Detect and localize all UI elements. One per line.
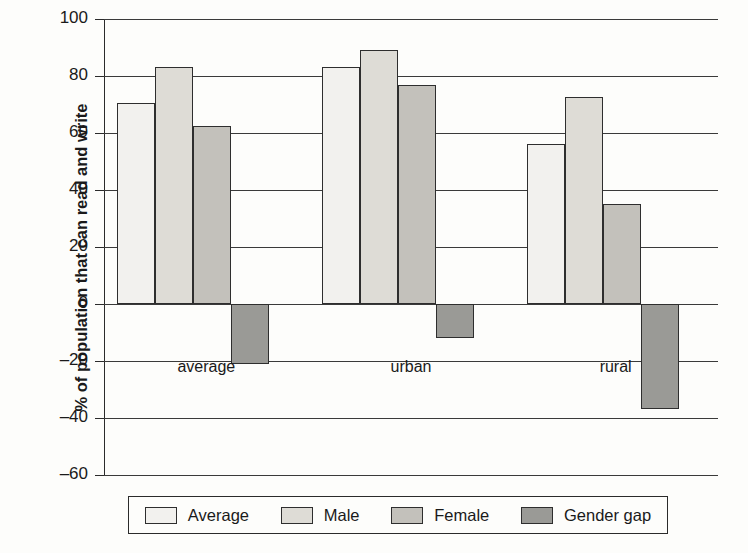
bar-urban-gender-gap [436, 304, 474, 338]
y-tick-60 [95, 133, 104, 134]
gridline-100 [104, 19, 718, 20]
bar-average-male [155, 67, 193, 304]
legend-label: Gender gap [564, 506, 651, 525]
bar-average-gender-gap [231, 304, 269, 364]
category-label-rural: rural [513, 358, 718, 376]
bar-rural-average [527, 144, 565, 304]
y-tick-label: 80 [42, 65, 88, 85]
gridline-neg60 [104, 475, 718, 476]
bar-rural-female [603, 204, 641, 304]
y-tick-label: 0 [42, 293, 88, 313]
legend-item-average[interactable]: Average [145, 506, 249, 525]
legend-swatch-icon [281, 507, 313, 524]
y-tick-neg40 [95, 418, 104, 419]
y-tick-neg20 [95, 361, 104, 362]
chart-figure: % of population that can read and write … [0, 0, 748, 553]
y-tick-label: –60 [42, 464, 88, 484]
gridline-neg40 [104, 418, 718, 419]
bar-rural-gender-gap [641, 304, 679, 409]
category-label-urban: urban [309, 358, 514, 376]
y-tick-0 [95, 304, 104, 305]
bar-urban-male [360, 50, 398, 304]
y-tick-label: –40 [42, 407, 88, 427]
legend-swatch-icon [145, 507, 177, 524]
plot-area [104, 19, 718, 475]
chart-legend: AverageMaleFemaleGender gap [128, 496, 668, 534]
bar-urban-average [322, 67, 360, 304]
gridline-80 [104, 76, 718, 77]
y-tick-label: 100 [42, 8, 88, 28]
legend-label: Average [188, 506, 249, 525]
gridline-0 [104, 304, 718, 305]
bar-urban-female [398, 85, 436, 304]
bar-average-average [117, 103, 155, 304]
legend-swatch-icon [521, 507, 553, 524]
bar-rural-male [565, 97, 603, 304]
y-tick-label: 20 [42, 236, 88, 256]
legend-label: Male [324, 506, 360, 525]
legend-item-gender-gap[interactable]: Gender gap [521, 506, 651, 525]
y-tick-neg60 [95, 475, 104, 476]
bar-average-female [193, 126, 231, 304]
y-tick-100 [95, 19, 104, 20]
legend-swatch-icon [391, 507, 423, 524]
y-tick-40 [95, 190, 104, 191]
y-tick-80 [95, 76, 104, 77]
legend-label: Female [434, 506, 489, 525]
y-tick-label: 40 [42, 179, 88, 199]
category-label-average: average [104, 358, 309, 376]
y-tick-20 [95, 247, 104, 248]
y-tick-label: –20 [42, 350, 88, 370]
legend-item-female[interactable]: Female [391, 506, 489, 525]
legend-item-male[interactable]: Male [281, 506, 360, 525]
y-tick-label: 60 [42, 122, 88, 142]
